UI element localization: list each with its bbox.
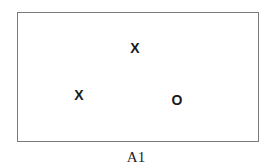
figure-caption: A1 — [0, 149, 272, 166]
mark-x-top: X — [130, 41, 139, 55]
mark-o: O — [172, 93, 183, 107]
mark-x-left: X — [74, 88, 83, 102]
diagram-frame — [17, 12, 259, 142]
